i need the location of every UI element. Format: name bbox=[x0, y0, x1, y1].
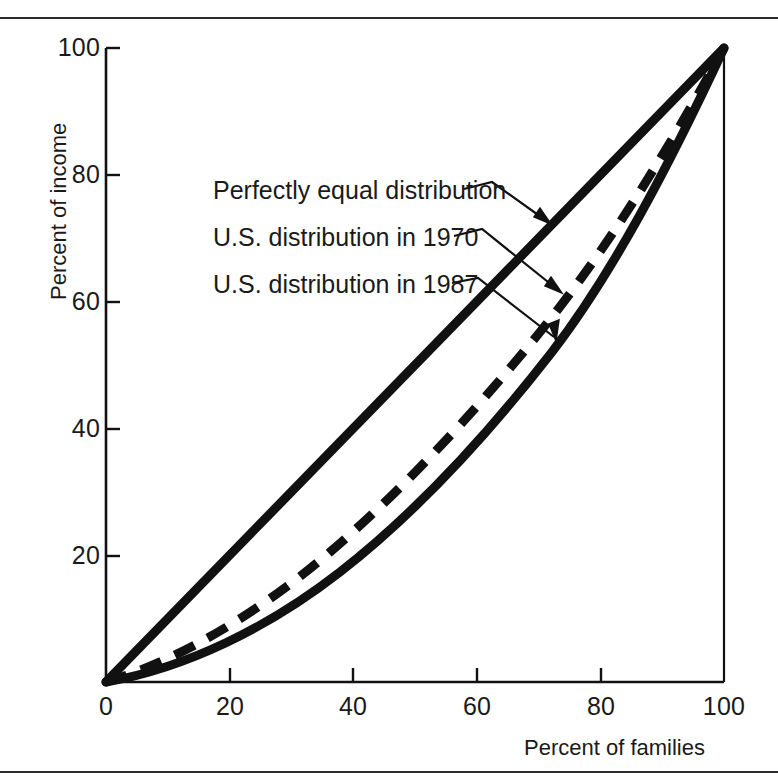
arrowhead-0 bbox=[534, 208, 551, 224]
series-perfectly-equal-distribution bbox=[106, 48, 724, 682]
x-axis-title: Percent of families bbox=[524, 735, 705, 761]
annotation-label-perfectly-equal-distribution: Perfectly equal distribution bbox=[213, 176, 506, 205]
x-tick-label-20: 20 bbox=[202, 692, 258, 721]
annotation-label-us-distribution-1987: U.S. distribution in 1987 bbox=[213, 270, 478, 299]
x-tick-label-60: 60 bbox=[449, 692, 505, 721]
x-axis-ticks bbox=[230, 668, 601, 682]
y-axis-ticks bbox=[106, 48, 120, 556]
y-tick-label-40: 40 bbox=[44, 414, 100, 443]
arrowhead-1 bbox=[545, 277, 562, 293]
annotation-label-us-distribution-1970: U.S. distribution in 1970 bbox=[213, 223, 478, 252]
lorenz-curve-chart bbox=[0, 0, 778, 782]
x-tick-label-80: 80 bbox=[573, 692, 629, 721]
x-tick-label-100: 100 bbox=[696, 692, 752, 721]
x-tick-label-40: 40 bbox=[325, 692, 381, 721]
y-tick-label-100: 100 bbox=[44, 33, 100, 62]
y-tick-label-20: 20 bbox=[44, 541, 100, 570]
y-axis-title: Percent of income bbox=[46, 123, 72, 300]
x-tick-label-0: 0 bbox=[78, 692, 134, 721]
figure-page: 100 80 60 40 20 0 20 40 60 80 100 Percen… bbox=[0, 0, 778, 782]
